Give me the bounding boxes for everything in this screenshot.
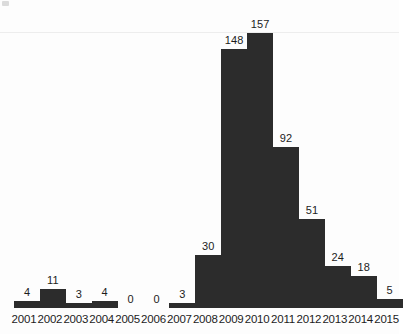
x-axis-tick-label: 2015 <box>371 311 403 327</box>
bar-value-label: 51 <box>291 204 333 216</box>
bar <box>247 33 273 308</box>
bar <box>299 219 325 308</box>
bar-value-label: 11 <box>32 274 74 286</box>
bar <box>195 255 221 308</box>
bar-value-label: 18 <box>343 261 385 273</box>
bar-value-label: 92 <box>265 132 307 144</box>
bar <box>377 299 403 308</box>
bar <box>169 303 195 308</box>
bar <box>221 49 247 308</box>
bar <box>273 147 299 308</box>
bar-value-label: 5 <box>369 284 407 296</box>
bar <box>14 301 40 308</box>
bar-value-label: 157 <box>239 18 281 30</box>
bar <box>66 303 92 308</box>
x-axis: 2001200220032004200520062007200820092010… <box>0 311 399 331</box>
